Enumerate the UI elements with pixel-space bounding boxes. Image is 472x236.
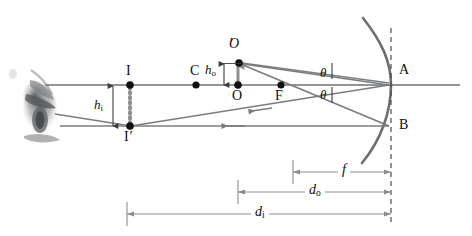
label-I-prime-mark: ′	[129, 129, 132, 144]
label-do-sub: o	[316, 188, 321, 198]
point-O-prime	[235, 59, 243, 67]
label-A-letter: A	[399, 62, 409, 77]
label-do-d: d	[309, 182, 316, 197]
label-di-sub: i	[262, 210, 265, 220]
label-O-prime: O′	[229, 37, 232, 51]
concave-mirror-arc	[362, 18, 391, 163]
label-hi-sub: i	[101, 103, 103, 113]
label-B: B	[399, 118, 408, 132]
ray-extension-to-eye-upper	[55, 114, 131, 126]
label-I: I	[126, 64, 131, 78]
label-image-distance: di	[251, 205, 269, 221]
label-f-letter: f	[342, 162, 346, 177]
ray-arrow-marker-upper	[252, 108, 272, 111]
label-theta-upper: θ	[320, 65, 326, 80]
label-F-letter: F	[275, 88, 283, 103]
label-I-letter: I	[126, 63, 131, 78]
label-I-prime: I′	[124, 130, 132, 144]
label-theta-reflected: θ	[320, 88, 326, 101]
point-I	[126, 81, 134, 89]
label-di-d: d	[255, 204, 262, 219]
ray-diagram-figure: O′ O I I′ C F A B ho hi θ θ f do di	[0, 0, 472, 236]
label-F: F	[275, 89, 283, 103]
label-A: A	[399, 63, 409, 77]
label-B-letter: B	[399, 117, 408, 132]
label-O: O	[232, 89, 242, 103]
ray-reflected-from-vertex	[131, 85, 389, 126]
observer-eye-illustration	[9, 69, 60, 142]
label-C-letter: C	[190, 63, 199, 78]
label-object-distance: do	[305, 183, 325, 199]
point-C	[192, 81, 199, 88]
label-image-height: hi	[94, 98, 103, 113]
label-O-prime-letter: O	[229, 37, 239, 51]
label-ho-sub: o	[212, 68, 216, 78]
label-object-height: ho	[205, 63, 216, 78]
label-theta-lower: θ	[320, 87, 326, 102]
label-C: C	[190, 64, 199, 78]
label-focal-length: f	[338, 163, 350, 177]
label-theta-incident: θ	[320, 66, 326, 79]
label-O-letter: O	[232, 88, 242, 103]
